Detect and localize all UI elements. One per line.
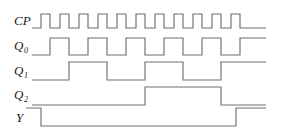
waveform-q0: [32, 38, 266, 55]
label-q2-text: Q: [14, 87, 24, 102]
label-q0-subscript: 0: [24, 46, 28, 55]
label-y-text: Y: [16, 110, 23, 125]
label-cp-text: CP: [14, 13, 31, 28]
waveform-q2: [32, 87, 266, 105]
label-q0-text: Q: [14, 38, 24, 53]
label-q1-subscript: 1: [24, 71, 28, 80]
waveform-cp: [32, 14, 266, 28]
waveform-traces: [26, 14, 266, 126]
label-q2-subscript: 2: [24, 95, 28, 104]
waveform-q1: [32, 62, 266, 80]
timing-diagram: CPQ0Q1Q2Y: [0, 0, 283, 135]
label-q1-text: Q: [14, 63, 24, 78]
label-q2: Q2: [14, 88, 28, 101]
waveform-y: [26, 108, 266, 126]
label-q1: Q1: [14, 64, 28, 77]
waveform-canvas: [0, 0, 283, 135]
label-cp: CP: [14, 14, 31, 27]
label-y: Y: [16, 111, 23, 124]
label-q0: Q0: [14, 39, 28, 52]
